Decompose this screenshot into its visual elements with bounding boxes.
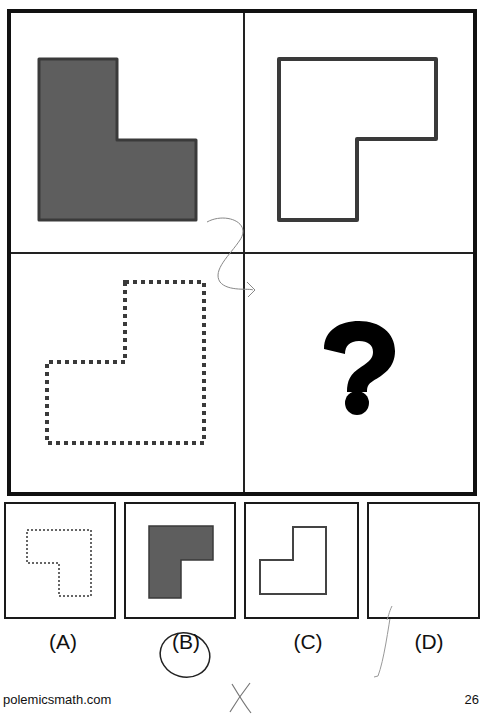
option-a-label: (A) xyxy=(33,630,93,654)
cell-top-right-outline-l-shape xyxy=(279,59,436,220)
pencil-arrow-annotation xyxy=(207,218,255,297)
option-d-label: (D) xyxy=(399,630,459,654)
option-c-label: (C) xyxy=(278,630,338,654)
option-b-label: (B) xyxy=(156,630,216,654)
cell-bottom-left-dotted-l-shape xyxy=(47,282,204,443)
option-a-box[interactable] xyxy=(4,502,116,619)
pencil-x-annotation xyxy=(230,683,251,713)
option-d-box[interactable] xyxy=(367,502,480,619)
question-mark-icon xyxy=(324,321,395,415)
footer-site: polemicsmath.com xyxy=(3,692,111,707)
footer-page-number: 26 xyxy=(465,692,479,707)
cell-top-left-filled-l-shape xyxy=(39,59,196,220)
option-c-box[interactable] xyxy=(244,502,359,619)
option-b-box[interactable] xyxy=(124,502,236,619)
